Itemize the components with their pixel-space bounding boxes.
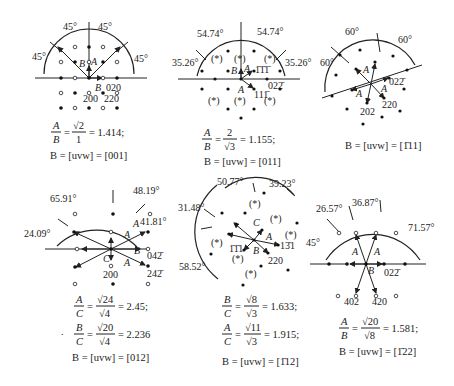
vector-label: A: [380, 83, 388, 94]
svg-text:1: 1: [76, 134, 81, 145]
angle-label: 24.09°: [24, 228, 51, 239]
angle-label: 58.52°: [179, 261, 206, 272]
svg-text:= 1.414;: = 1.414;: [89, 127, 124, 138]
vector-label: B: [95, 82, 101, 93]
svg-text:C: C: [224, 308, 232, 319]
angle-label: 45°: [63, 21, 77, 32]
svg-text:=: =: [235, 301, 241, 312]
svg-text:(*): (*): [245, 268, 257, 280]
ratio-equation: A C = √11 √3 = 1.915;: [222, 322, 299, 347]
svg-text:√20: √20: [97, 322, 113, 333]
spot-label: 202: [360, 106, 375, 117]
vector-label: A: [237, 84, 245, 95]
svg-text:(*): (*): [211, 53, 223, 65]
svg-text:(*): (*): [211, 237, 223, 249]
ratio-equation: A C = √24 √4 = 2.45;: [74, 294, 148, 319]
svg-text:A: A: [203, 127, 211, 138]
angle-label: 35.26°: [172, 57, 199, 68]
svg-text:B: B: [53, 134, 60, 145]
angle-label: 31.48°: [178, 202, 205, 213]
svg-text:C: C: [76, 308, 84, 319]
ratio-equation: A B = √20 √8 = 1.581;: [339, 316, 418, 341]
panel-012: 65.91° 48.19° 41.81° 24.09° A A B C A 04…: [24, 185, 167, 363]
vector-label: B: [253, 245, 259, 256]
svg-text:=: =: [235, 329, 241, 340]
zone-axis-label: B = [uvw] = [1̄11]: [345, 140, 421, 151]
svg-text:A: A: [75, 294, 83, 305]
angle-label: 71.57°: [408, 222, 435, 233]
svg-text:C: C: [76, 336, 84, 347]
vector-label: B: [134, 245, 140, 256]
angle-label: 60°: [320, 57, 334, 68]
vector-label: A: [243, 63, 251, 74]
spot-label: 022̄: [384, 267, 401, 278]
svg-text:√8: √8: [246, 294, 257, 305]
ratio-equation: B C = √20 √4 = 2.236: [74, 322, 150, 347]
angle-label: 60°: [398, 34, 412, 45]
svg-text:(*): (*): [234, 53, 246, 65]
spot-label: 220: [382, 99, 397, 110]
vector-label: C: [103, 253, 110, 264]
zone-axis-label: B = [uvw] = [011]: [204, 156, 281, 167]
svg-text:(*): (*): [232, 253, 244, 265]
angle-label: 54.74°: [257, 26, 284, 37]
angle-label: 45°: [98, 21, 112, 32]
spot-label: 242̄: [147, 268, 164, 279]
svg-text:B: B: [224, 294, 231, 305]
spot-label: 220: [268, 255, 283, 266]
vector-label: A: [355, 88, 363, 99]
diffraction-patterns-figure: 45° 45° 45° 45° B A B 020 200 220 A B = …: [0, 0, 454, 386]
svg-text:√3: √3: [246, 308, 257, 319]
angle-label: 45°: [134, 53, 148, 64]
svg-text:√3: √3: [246, 336, 257, 347]
spot-label: 420: [372, 296, 387, 307]
ratio-equation: B C = √8 √3 = 1.633;: [222, 294, 297, 319]
spot-label: 022̄: [268, 80, 285, 91]
angle-label: 35.26°: [285, 57, 312, 68]
vector-label: B: [231, 65, 237, 76]
svg-text:A: A: [52, 120, 60, 131]
panel-m112: 50.77° 39.23° 31.48° 58.52° C A B 13̄1 1…: [178, 176, 299, 367]
spot-label: 200: [103, 269, 118, 280]
panel-m111: 60° 60° 60° A A A 022̄ 220 202 B = [uvw]…: [320, 26, 422, 151]
angle-label: 54.74°: [197, 28, 224, 39]
svg-text:=: =: [64, 127, 70, 138]
svg-text:√4: √4: [99, 336, 111, 347]
angle-label: 65.91°: [50, 193, 77, 204]
vector-label: A: [123, 257, 131, 268]
svg-text:B: B: [341, 330, 348, 341]
svg-text:C: C: [224, 336, 232, 347]
zone-axis-label: B = [uvw] = [1̄22]: [339, 346, 416, 357]
svg-text:(*): (*): [270, 213, 282, 225]
vector-label: A: [132, 218, 140, 229]
vector-label: A: [265, 231, 273, 242]
svg-text:B: B: [76, 322, 83, 333]
vector-label: A: [351, 246, 359, 257]
svg-text:= 2.236: = 2.236: [118, 329, 150, 340]
svg-text:B: B: [204, 141, 211, 152]
svg-text:(*): (*): [208, 95, 220, 107]
svg-text:= 1.155;: = 1.155;: [240, 134, 275, 145]
angle-label: 45°: [32, 51, 46, 62]
zone-axis-label: B = [uvw] = [001]: [50, 150, 127, 161]
vector-label: A: [90, 56, 98, 67]
spot-label: 042̄: [147, 250, 164, 261]
svg-text:√24: √24: [97, 294, 114, 305]
spot-label: 020: [106, 82, 121, 93]
ratio-equation: A B = √2 1 = 1.414;: [51, 120, 124, 145]
svg-text:=: =: [352, 323, 358, 334]
svg-text:=: =: [215, 134, 221, 145]
panel-m122: 26.57° 36.87° 71.57° 45° A A B 022̄ 402 …: [306, 197, 435, 357]
panel-001: 45° 45° 45° 45° B A B 020 200 220 A B = …: [32, 21, 148, 161]
spot-label: 200: [83, 93, 98, 104]
svg-text:√8: √8: [364, 330, 375, 341]
svg-text:= 1.581;: = 1.581;: [383, 323, 418, 334]
svg-text:=: =: [87, 329, 93, 340]
spot-label: 022̄: [389, 76, 406, 87]
svg-text:A: A: [223, 322, 231, 333]
ratio-equation: A B = 2 √3 = 1.155;: [202, 127, 275, 152]
panel-011: 54.74° 54.74° 35.26° 35.26° B A A 1̄1̄1̄…: [172, 22, 312, 167]
svg-text:(*): (*): [264, 53, 276, 65]
angle-label: 36.87°: [352, 197, 379, 208]
vector-label: C: [253, 217, 260, 228]
